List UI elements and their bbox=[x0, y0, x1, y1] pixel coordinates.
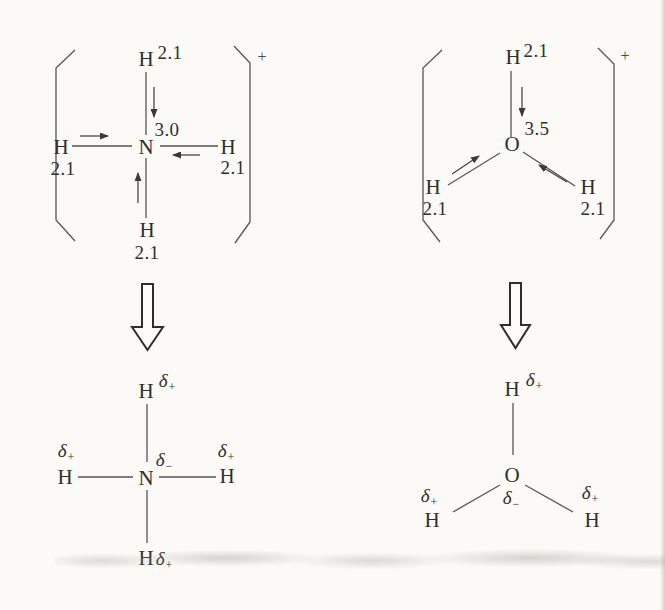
plus-sign: + bbox=[228, 450, 235, 464]
atom-h-top: H bbox=[505, 47, 520, 68]
polarity-arrow-upleft bbox=[539, 165, 567, 182]
bond-o-h-right bbox=[523, 152, 575, 186]
delta-symbol: δ bbox=[582, 482, 591, 503]
en-oxygen: 3.5 bbox=[525, 119, 550, 138]
plus-sign: + bbox=[536, 379, 543, 393]
delta-symbol: δ bbox=[58, 440, 67, 461]
atom-h-right: H bbox=[219, 466, 234, 487]
en-h-right: 2.1 bbox=[581, 199, 606, 218]
atom-h-left: H bbox=[57, 467, 72, 488]
atom-h-right: H bbox=[580, 177, 595, 198]
bond-o-h-right bbox=[525, 485, 573, 512]
positive-charge: + bbox=[257, 49, 266, 65]
partial-positive-charge: δ+ bbox=[218, 441, 235, 463]
atom-h-left: H bbox=[53, 137, 68, 158]
minus-sign: − bbox=[166, 459, 173, 473]
atom-h-right: H bbox=[584, 510, 599, 531]
atom-h-right: H bbox=[220, 137, 235, 158]
atom-oxygen: O bbox=[504, 465, 519, 486]
atom-h-left: H bbox=[424, 510, 439, 531]
atom-h-top: H bbox=[138, 49, 153, 70]
partial-positive-charge: δ+ bbox=[421, 486, 438, 508]
atom-oxygen: O bbox=[504, 134, 519, 155]
atom-h-top: H bbox=[504, 379, 519, 400]
minus-sign: − bbox=[513, 497, 520, 511]
delta-symbol: δ bbox=[526, 369, 535, 390]
en-h-left: 2.1 bbox=[423, 199, 448, 218]
atom-nitrogen: N bbox=[138, 468, 153, 489]
atom-h-top: H bbox=[138, 381, 153, 402]
en-nitrogen: 3.0 bbox=[155, 120, 180, 139]
partial-positive-charge: δ+ bbox=[159, 371, 176, 393]
positive-charge: + bbox=[620, 48, 629, 64]
en-h-right: 2.1 bbox=[221, 158, 246, 177]
implies-down-arrow-left bbox=[132, 284, 163, 350]
delta-symbol: δ bbox=[503, 487, 512, 508]
atom-h-left: H bbox=[425, 177, 440, 198]
right-bracket bbox=[234, 46, 250, 243]
partial-positive-charge: δ+ bbox=[526, 370, 543, 392]
atom-h-bottom: H bbox=[139, 220, 154, 241]
en-h-left: 2.1 bbox=[51, 159, 76, 178]
en-h-bottom: 2.1 bbox=[135, 243, 160, 262]
delta-symbol: δ bbox=[159, 370, 168, 391]
delta-symbol: δ bbox=[421, 485, 430, 506]
plus-sign: + bbox=[68, 450, 75, 464]
plus-sign: + bbox=[592, 492, 599, 506]
partial-positive-charge: δ+ bbox=[58, 441, 75, 463]
diagram-lines-layer bbox=[0, 0, 665, 610]
electronegativity-polarity-figure: H 2.1 3.0 N H 2.1 H 2.1 H 2.1 + H 2.1 3.… bbox=[0, 0, 665, 610]
partial-negative-charge: δ− bbox=[156, 450, 173, 472]
polarity-arrow-upright bbox=[452, 156, 479, 174]
en-h-top: 2.1 bbox=[158, 43, 183, 62]
partial-positive-charge: δ+ bbox=[582, 483, 599, 505]
en-h-top: 2.1 bbox=[524, 41, 549, 60]
atom-nitrogen: N bbox=[138, 137, 153, 158]
delta-symbol: δ bbox=[218, 440, 227, 461]
scan-artifact-band bbox=[55, 546, 665, 573]
bond-o-h-left bbox=[448, 153, 500, 185]
delta-symbol: δ bbox=[156, 449, 165, 470]
bond-o-h-left bbox=[453, 485, 500, 512]
implies-down-arrow-right bbox=[501, 283, 530, 348]
scan-edge-shadow bbox=[660, 0, 665, 610]
partial-negative-charge: δ− bbox=[503, 488, 520, 510]
plus-sign: + bbox=[169, 380, 176, 394]
